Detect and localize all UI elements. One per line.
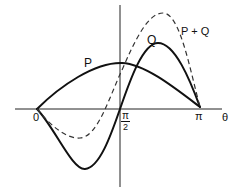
tick-half-pi-denominator: 2 [121, 122, 130, 132]
tick-zero: 0 [33, 112, 39, 123]
curve-q [37, 43, 200, 169]
tick-half-pi-numerator: π [121, 111, 130, 122]
tick-pi: π [195, 111, 203, 122]
curve-p-plus-q [37, 13, 200, 138]
label-q: Q [147, 34, 156, 46]
diagram-canvas: P Q P + Q 0 π 2 π θ [0, 0, 238, 196]
axis-label-theta: θ [222, 112, 228, 123]
label-p-plus-q: P + Q [181, 26, 209, 37]
curve-p [37, 63, 200, 109]
label-p: P [84, 57, 92, 69]
tick-half-pi: π 2 [121, 111, 130, 132]
